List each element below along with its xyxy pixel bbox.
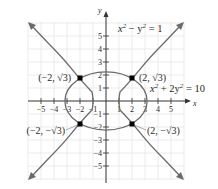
x-tick-labels: −5 −4 −3 −2 −1 1 2 3 4 5: [37, 105, 173, 114]
y-tick: 5: [98, 32, 102, 41]
y-tick: −1: [93, 110, 102, 119]
y-tick: −4: [93, 149, 102, 158]
x-tick: −5: [37, 105, 46, 114]
y-axis-arrow-icon: [104, 11, 109, 17]
axes: [28, 11, 191, 183]
point-label: (2, −√3): [147, 125, 180, 137]
x-tick: 4: [156, 105, 160, 114]
y-axis-label: y: [97, 6, 102, 15]
point-marker: [78, 122, 83, 127]
hyperbola-equation: x2 − y2 = 1: [117, 22, 163, 34]
x-tick: −2: [76, 105, 85, 114]
point-marker: [130, 122, 135, 127]
point-label: (−2, √3): [38, 72, 71, 84]
y-tick: −5: [93, 162, 102, 171]
y-tick: −3: [93, 136, 102, 145]
y-tick: 4: [98, 45, 102, 54]
y-tick: 1: [98, 84, 102, 93]
x-axis-label: x: [192, 99, 197, 108]
graph: −5 −4 −3 −2 −1 1 2 3 4 5 5 4 3 2 1 −1 −2…: [0, 0, 218, 189]
x-axis-arrow-icon: [185, 99, 191, 104]
point-marker: [130, 76, 135, 81]
x-tick: −4: [50, 105, 59, 114]
y-tick: −2: [93, 123, 102, 132]
point-label: (−2, −√3): [27, 125, 65, 137]
y-tick: 3: [98, 58, 102, 67]
ellipse-equation: x2 + 2y2 = 10: [149, 82, 205, 94]
x-tick: 2: [130, 105, 134, 114]
x-tick: 5: [169, 105, 173, 114]
point-marker: [78, 76, 83, 81]
